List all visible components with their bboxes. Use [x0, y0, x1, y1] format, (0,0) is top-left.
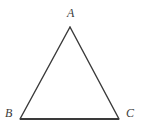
vertex-label-b: B — [5, 107, 12, 119]
triangle-drawing — [0, 0, 144, 135]
triangle-side-ac — [70, 27, 119, 119]
triangle-side-ab — [20, 27, 70, 119]
vertex-label-c: C — [126, 107, 134, 119]
triangle-figure: A B C — [0, 0, 144, 135]
vertex-label-a: A — [67, 7, 74, 19]
